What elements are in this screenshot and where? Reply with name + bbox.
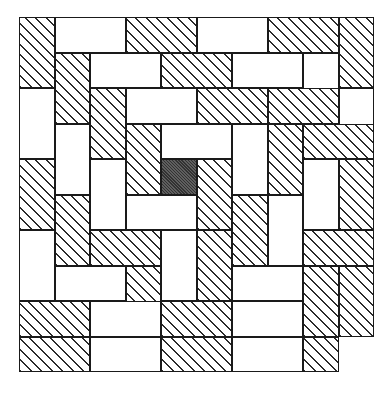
tiling-grid bbox=[19, 17, 374, 372]
tile-r7c1-h-plain bbox=[55, 266, 126, 302]
tile-r0c9-v-hatch bbox=[339, 17, 375, 88]
tile-r4c0-v-hatch bbox=[19, 159, 55, 230]
tile-r3c3-v-hatch bbox=[126, 124, 162, 195]
tile-r5c6-v-hatch bbox=[232, 195, 268, 266]
tile-r9c6-h-plain bbox=[232, 337, 303, 373]
tile-r3c1-v-plain bbox=[55, 124, 91, 195]
tile-r4c5-h-hatch bbox=[197, 159, 233, 230]
tile-r6c5-h-hatch bbox=[197, 230, 233, 301]
tile-r9c0-h-hatch bbox=[19, 337, 90, 373]
tile-r8c0-h-hatch bbox=[19, 301, 90, 337]
tile-r7c9-v-hatch bbox=[339, 266, 375, 337]
tile-r4c2-v-plain bbox=[90, 159, 126, 230]
tile-r3c4-h-plain bbox=[161, 124, 232, 160]
tile-r0c5-h-plain bbox=[197, 17, 268, 53]
tile-r1c2-h-plain bbox=[90, 53, 161, 89]
tile-r1c4-h-hatch bbox=[161, 53, 232, 89]
tile-r2c7-h-hatch bbox=[268, 88, 339, 124]
tile-r3c8-h-hatch bbox=[303, 124, 374, 160]
tile-r7c6-h-plain bbox=[232, 266, 303, 302]
tile-r3c6-v-plain bbox=[232, 124, 268, 195]
tile-r2c3-h-plain bbox=[126, 88, 197, 124]
tile-r5c7-v-plain bbox=[268, 195, 304, 266]
tile-r6c4-v-plain bbox=[161, 230, 197, 301]
tile-r0c1-h-plain bbox=[55, 17, 126, 53]
tile-r1c1-v-hatch bbox=[55, 53, 91, 124]
tile-r4c4-center bbox=[161, 159, 197, 195]
tile-r2c5-h-hatch bbox=[197, 88, 268, 124]
tile-r9c8-h-hatch bbox=[303, 337, 339, 373]
tile-r3c7-v-hatch bbox=[268, 124, 304, 195]
tile-r9c4-h-hatch bbox=[161, 337, 232, 373]
tile-r1c6-h-plain bbox=[232, 53, 303, 89]
tile-r5c1-v-hatch bbox=[55, 195, 91, 266]
tile-r4c8-v-plain bbox=[303, 159, 339, 230]
tile-r2c2-v-hatch bbox=[90, 88, 126, 159]
tile-r6c2-h-hatch bbox=[90, 230, 161, 266]
tile-r8c6-h-plain bbox=[232, 301, 303, 337]
tile-r8c4-h-hatch bbox=[161, 301, 232, 337]
tile-r0c0-v-hatch bbox=[19, 17, 55, 88]
tile-r8c2-h-plain bbox=[90, 301, 161, 337]
tile-r7c8-v-hatch bbox=[303, 266, 339, 337]
tile-r2c0-v-plain bbox=[19, 88, 55, 159]
tile-r4c9-v-hatch bbox=[339, 159, 375, 230]
tile-r6c8-h-hatch bbox=[303, 230, 374, 266]
tile-r6c0-v-plain bbox=[19, 230, 55, 301]
tile-r5c3-h-plain bbox=[126, 195, 197, 231]
tiling-figure bbox=[0, 0, 387, 397]
tile-r9c2-h-plain bbox=[90, 337, 161, 373]
tile-r0c3-h-hatch bbox=[126, 17, 197, 53]
tile-r0c7-h-hatch bbox=[268, 17, 339, 53]
